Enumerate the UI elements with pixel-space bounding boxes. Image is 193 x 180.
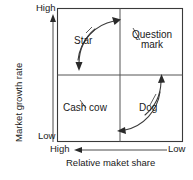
y-axis-low-label: Low: [38, 131, 55, 141]
quadrant-label-star: Star: [74, 36, 92, 47]
quadrant-label-dog: Dog: [139, 103, 157, 114]
y-axis-title: Market growth rate: [14, 63, 24, 142]
x-axis-arrowhead-icon: [74, 147, 82, 153]
x-axis-high-label: High: [50, 144, 70, 154]
x-axis-title: Relative maket share: [66, 158, 155, 168]
quadrant-label-cash-cow: Cash cow: [63, 103, 107, 114]
matrix-drawing: [0, 0, 193, 180]
y-axis-high-label: High: [36, 3, 56, 13]
bcg-matrix-figure: Market growth rate High Low High Low Rel…: [0, 0, 193, 180]
arc-bottom-arrowhead-icon: [117, 127, 126, 134]
x-axis-low-label: Low: [168, 144, 185, 154]
quadrant-label-question-mark: Question mark: [124, 30, 180, 50]
y-axis-arrowhead-icon: [50, 14, 56, 22]
question-mark-line-2: mark: [141, 39, 163, 50]
arc-left-arrowhead-icon: [76, 62, 83, 71]
